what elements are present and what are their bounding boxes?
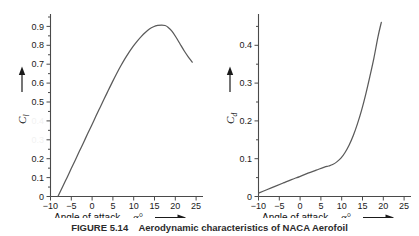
lift-x-axis-title-group: Angle of attack α° [54,212,186,218]
drag-xtick-label-1: −5 [274,201,284,211]
drag-ytick-label-1: 0.1 [239,154,252,164]
lift-ytick-label-3: 0.3 [31,135,44,145]
lift-xtick-label-4: 10 [129,201,139,211]
figure-caption-text: Aerodynamic characteristics of NACA Aero… [138,222,347,233]
lift-x-axis-title: Angle of attack [54,212,121,218]
drag-ytick-label-4: 0.4 [239,40,252,50]
lift-chart-svg: 0 0.1 0.2 0.3 0.4 0.5 0.6 0.7 0.8 0.9 −1… [0,0,209,218]
figure-caption: FIGURE 5.14 Aerodynamic characteristics … [0,222,419,233]
lift-xtick-label-1: −5 [66,201,76,211]
lift-ytick-label-2: 0.2 [31,154,44,164]
drag-y-axis-arrow-icon [227,67,233,76]
lift-ytick-label-5: 0.5 [31,97,44,107]
lift-xtick-label-6: 20 [170,201,180,211]
drag-coefficient-chart: 0 0.1 0.2 0.3 0.4 −10 −5 0 5 10 15 20 25 [210,0,419,218]
drag-y-axis-subscript: d [230,113,239,117]
lift-x-axis-arrow-icon [178,214,187,218]
drag-x-axis-title-symbol: α° [341,212,352,218]
lift-ytick-label-9: 0.9 [31,22,44,32]
drag-y-axis-title-group: C d [224,67,239,125]
drag-data-curve [259,22,382,193]
lift-xtick-label-7: 25 [191,201,201,211]
lift-ytick-label-6: 0.6 [31,78,44,88]
figure-caption-label: FIGURE 5.14 [71,222,128,233]
drag-x-ticks [259,197,405,201]
lift-ytick-label-8: 0.8 [31,40,44,50]
lift-xtick-label-3: 5 [110,201,115,211]
lift-xtick-label-0: −10 [43,201,58,211]
drag-xtick-label-0: −10 [251,201,266,211]
lift-xtick-label-2: 0 [90,201,95,211]
lift-y-axis-title-group: C l [16,67,31,125]
drag-ytick-label-3: 0.3 [239,78,252,88]
drag-xtick-label-7: 25 [399,201,409,211]
drag-xtick-label-3: 5 [318,201,323,211]
lift-ytick-label-7: 0.7 [31,59,44,69]
drag-xtick-label-4: 10 [337,201,347,211]
drag-y-ticks [255,45,259,196]
drag-x-axis-title-group: Angle of attack α° [262,212,394,218]
lift-y-axis-arrow-icon [19,67,25,76]
drag-chart-svg: 0 0.1 0.2 0.3 0.4 −10 −5 0 5 10 15 20 25 [210,0,419,218]
drag-x-axis-arrow-icon [386,214,395,218]
lift-xtick-label-5: 15 [149,201,159,211]
figure-container: 0 0.1 0.2 0.3 0.4 0.5 0.6 0.7 0.8 0.9 −1… [0,0,419,236]
lift-data-curve [58,25,192,196]
drag-x-axis-title: Angle of attack [262,212,329,218]
lift-y-axis-subscript: l [22,114,31,116]
lift-coefficient-chart: 0 0.1 0.2 0.3 0.4 0.5 0.6 0.7 0.8 0.9 −1… [0,0,209,218]
lift-ytick-label-1: 0.1 [31,173,44,183]
drag-ytick-label-2: 0.2 [239,116,252,126]
lift-ytick-label-4: 0.4 [31,116,44,126]
drag-xtick-label-5: 15 [357,201,367,211]
drag-xtick-label-2: 0 [298,201,303,211]
lift-x-axis-title-symbol: α° [133,212,144,218]
lift-x-ticks [51,197,197,201]
drag-xtick-label-6: 20 [378,201,388,211]
